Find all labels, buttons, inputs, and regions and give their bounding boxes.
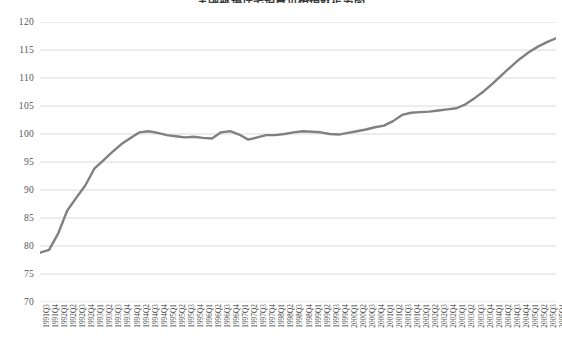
- x-axis-tick-label: 1997Q2: [251, 304, 259, 350]
- x-axis-tick-label: 1996Q3: [224, 304, 232, 350]
- x-axis-tick-label: 1999Q2: [324, 304, 332, 350]
- x-axis-tick-label: 1999Q1: [315, 304, 323, 350]
- x-axis-tick-label: 1993Q3: [115, 304, 123, 350]
- x-axis-tick-label: 2001Q2: [396, 304, 404, 350]
- x-axis-tick-label: 1993Q4: [124, 304, 132, 350]
- x-axis-tick-label: 1998Q2: [287, 304, 295, 350]
- y-axis-tick-label: 80: [24, 241, 34, 251]
- x-axis-tick-label: 2002Q3: [441, 304, 449, 350]
- series-group: [40, 38, 556, 252]
- x-axis-tick-label: 1995Q3: [188, 304, 196, 350]
- x-axis-tick-label: 2000Q2: [360, 304, 368, 350]
- x-axis-tick-label: 1998Q3: [296, 304, 304, 350]
- x-axis-tick-label: 1997Q4: [269, 304, 277, 350]
- x-axis-tick-label: 1996Q1: [206, 304, 214, 350]
- x-axis-tick-label: 1998Q1: [278, 304, 286, 350]
- x-axis-tick-label: 1994Q2: [143, 304, 151, 350]
- x-axis-tick-label: 2003Q2: [468, 304, 476, 350]
- x-axis-tick-label: 2000Q4: [378, 304, 386, 350]
- x-axis-tick-label: 1995Q4: [197, 304, 205, 350]
- x-axis-tick-label: 1999Q4: [342, 304, 350, 350]
- x-axis-tick-label: 1996Q4: [233, 304, 241, 350]
- y-axis-tick-label: 85: [24, 213, 34, 223]
- line-chart: 全国城镇住宅销售价格指数走势图 120115110105100959085807…: [0, 0, 562, 362]
- x-axis-tick-label: 2001Q3: [405, 304, 413, 350]
- gridlines: [40, 22, 556, 302]
- x-axis-tick-label: 2004Q3: [514, 304, 522, 350]
- y-axis-tick-label: 95: [24, 157, 34, 167]
- x-axis-tick-label: 2004Q4: [523, 304, 531, 350]
- y-axis-tick-label: 120: [19, 17, 34, 27]
- x-axis-tick-label: 1999Q3: [333, 304, 341, 350]
- x-axis-tick-label: 2003Q4: [487, 304, 495, 350]
- x-axis-tick-label: 1991Q4: [52, 304, 60, 350]
- y-axis: 120115110105100959085807570: [0, 22, 38, 302]
- y-axis-tick-label: 115: [19, 45, 34, 55]
- x-axis-tick-label: 2002Q1: [423, 304, 431, 350]
- x-axis: 1991Q31991Q41992Q11992Q21992Q31992Q41993…: [40, 304, 556, 362]
- x-axis-tick-label: 2004Q1: [496, 304, 504, 350]
- x-axis-tick-label: 1994Q1: [134, 304, 142, 350]
- x-axis-tick-label: 2004Q2: [505, 304, 513, 350]
- x-axis-tick-label: 1997Q3: [260, 304, 268, 350]
- x-axis-tick-label: 2005Q2: [541, 304, 549, 350]
- x-axis-tick-label: 1992Q4: [88, 304, 96, 350]
- x-axis-tick-label: 1992Q3: [79, 304, 87, 350]
- plot-svg: [40, 22, 556, 302]
- x-axis-tick-label: 2000Q1: [351, 304, 359, 350]
- x-axis-tick-label: 2003Q3: [478, 304, 486, 350]
- x-axis-tick-label: 1997Q1: [242, 304, 250, 350]
- x-axis-tick-label: 1992Q2: [70, 304, 78, 350]
- x-axis-tick-label: 1995Q2: [179, 304, 187, 350]
- x-axis-tick-label: 1991Q3: [43, 304, 51, 350]
- y-axis-tick-label: 75: [24, 269, 34, 279]
- x-axis-tick-label: 2001Q1: [387, 304, 395, 350]
- x-axis-tick-label: 2005Q3: [550, 304, 558, 350]
- chart-title: 全国城镇住宅销售价格指数走势图: [0, 0, 562, 3]
- y-axis-tick-label: 90: [24, 185, 34, 195]
- x-axis-tick-label: 2002Q4: [450, 304, 458, 350]
- x-axis-tick-label: 2003Q1: [459, 304, 467, 350]
- x-axis-tick-label: 1996Q2: [215, 304, 223, 350]
- x-axis-tick-label: 1994Q4: [161, 304, 169, 350]
- x-axis-tick-label: 1992Q1: [61, 304, 69, 350]
- y-axis-tick-label: 105: [19, 101, 34, 111]
- x-axis-tick-label: 1995Q1: [170, 304, 178, 350]
- y-axis-tick-label: 100: [19, 129, 34, 139]
- x-axis-tick-label: 2005Q1: [532, 304, 540, 350]
- x-axis-tick-label: 2001Q4: [414, 304, 422, 350]
- y-axis-tick-label: 70: [24, 297, 34, 307]
- x-axis-tick-label: 1998Q4: [306, 304, 314, 350]
- x-axis-tick-label: 2002Q2: [432, 304, 440, 350]
- x-axis-tick-label: 1993Q2: [106, 304, 114, 350]
- data-line: [40, 38, 556, 252]
- y-axis-tick-label: 110: [19, 73, 34, 83]
- x-axis-tick-label: 2000Q3: [369, 304, 377, 350]
- plot-area: [40, 22, 556, 302]
- x-axis-tick-label: 1994Q3: [152, 304, 160, 350]
- x-axis-tick-label: 1993Q1: [97, 304, 105, 350]
